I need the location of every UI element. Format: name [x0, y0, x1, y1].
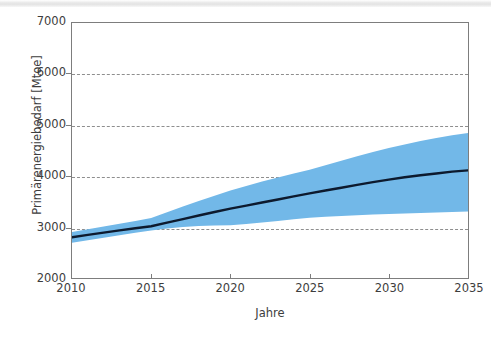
chart-figure: 200030004000500060007000 Primärenergiebe…: [0, 0, 491, 338]
x-tick-mark-2025: [310, 274, 311, 279]
x-tick-label-2020: 2020: [205, 283, 255, 295]
x-tick-label-2035: 2035: [444, 283, 491, 295]
x-tick-label-2025: 2025: [285, 283, 335, 295]
x-axis-tick-labels: 201020152020202520302035: [71, 283, 469, 299]
x-tick-mark-2015: [151, 274, 152, 279]
y-tick-label-7000: 7000: [18, 16, 66, 28]
x-tick-label-2015: 2015: [126, 283, 176, 295]
x-axis-title: Jahre: [71, 306, 469, 320]
x-tick-mark-2030: [389, 274, 390, 279]
primary-energy-demand-line: [72, 23, 468, 278]
plot-area: [71, 22, 469, 279]
x-tick-label-2010: 2010: [46, 283, 96, 295]
y-axis-title: Primärenergiebedarf [Mtoe]: [30, 35, 44, 235]
x-tick-mark-2020: [230, 274, 231, 279]
x-tick-label-2030: 2030: [364, 283, 414, 295]
